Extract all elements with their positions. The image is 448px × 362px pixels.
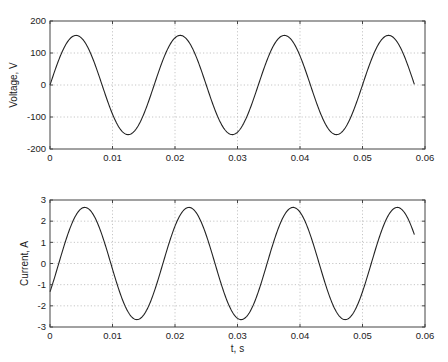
y-tick-label: 0 (41, 258, 46, 269)
y-tick-label: -100 (27, 111, 46, 122)
x-tick-label: 0.04 (291, 152, 310, 163)
x-tick-label: 0.02 (166, 152, 185, 163)
x-tick-label: 0 (47, 330, 52, 341)
y-tick-label: -200 (27, 143, 46, 154)
y-tick-label: 3 (41, 194, 46, 205)
y-axis-label: Current, A (19, 241, 30, 286)
y-tick-label: 200 (30, 15, 46, 26)
y-tick-label: 0 (41, 79, 46, 90)
current-plot: 00.010.020.030.040.050.06-3-2-10123Curre… (19, 194, 434, 354)
x-tick-label: 0 (47, 152, 52, 163)
x-tick-label: 0.06 (416, 152, 435, 163)
y-tick-label: -2 (38, 300, 46, 311)
x-tick-label: 0.04 (291, 330, 310, 341)
x-tick-label: 0.02 (166, 330, 185, 341)
y-tick-label: 100 (30, 47, 46, 58)
x-tick-label: 0.01 (103, 152, 122, 163)
x-tick-label: 0.05 (353, 152, 372, 163)
x-axis-label: t, s (231, 343, 244, 354)
figure-canvas: 00.010.020.030.040.050.06-200-1000100200… (0, 0, 448, 362)
x-tick-label: 0.05 (353, 330, 372, 341)
y-tick-label: -3 (38, 321, 46, 332)
x-tick-label: 0.03 (228, 330, 247, 341)
y-tick-label: -1 (38, 279, 46, 290)
x-tick-label: 0.03 (228, 152, 247, 163)
voltage-plot: 00.010.020.030.040.050.06-200-1000100200… (8, 15, 434, 163)
figure: 00.010.020.030.040.050.06-200-1000100200… (0, 0, 448, 362)
y-tick-label: 2 (41, 215, 46, 226)
x-tick-label: 0.06 (416, 330, 435, 341)
y-tick-label: 1 (41, 237, 46, 248)
x-tick-label: 0.01 (103, 330, 122, 341)
y-axis-label: Voltage, V (8, 62, 19, 108)
